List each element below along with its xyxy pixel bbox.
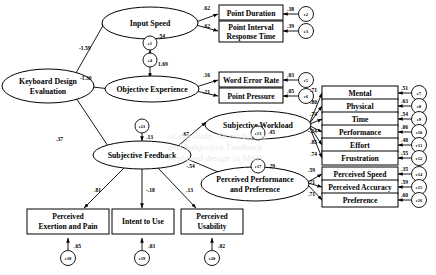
label-exertion-1: Perceived [52,212,84,221]
coef-sf-workload: .67 [182,131,189,137]
label-pp-line2: and Preference [230,185,281,194]
load-point-duration: .62 [203,5,210,11]
label-point-interval-2: Response Time [227,32,277,41]
label-effort: Effort [350,141,370,150]
label-e20: e20 [209,256,216,261]
var-e18: .65 [74,243,81,249]
label-e15: e15 [416,185,423,190]
load-word-error-rate: .16 [203,72,210,78]
load-physical: .80 [310,99,317,105]
label-objective-experience: Objective Experience [116,85,188,94]
label-mental: Mental [348,89,371,98]
resid-input-speed: .54 [158,33,165,39]
diagram-canvas: Keyboard Design Evaluation Input Speed O… [0,0,436,275]
coef-sf-intent: -.18 [146,187,155,193]
label-e10: e10 [416,130,423,135]
label-perceived-accuracy: Perceived Accuracy [328,183,392,192]
label-usability-1: Perceived [196,212,228,221]
load-perceived-speed: .59 [308,167,315,173]
label-intent-to-use: Intent to Use [122,217,164,226]
var-e11: .48 [401,137,408,143]
resid-workload: .45 [268,129,275,135]
coef-sf-exertion: .81 [94,187,101,193]
var-e12: .55 [401,150,408,156]
label-point-pressure: Point Pressure [227,92,275,101]
label-e5: e5 [304,78,309,83]
label-e2: e2 [304,12,309,17]
label-e4: e4 [148,58,153,63]
var-e10: .06 [401,124,408,130]
label-kde-line1: Keyboard Design [19,77,77,86]
label-e6: e6 [304,94,309,99]
edge-kde-to-subjective-feedback [72,92,112,152]
load-point-pressure: .21 [203,89,210,95]
label-usability-2: Usability [197,222,226,231]
var-e16: .60 [401,192,408,198]
var-e20: .02 [218,243,225,249]
edge-kde-to-input-speed [72,22,105,80]
var-e15: .59 [401,179,408,185]
resid-subjective-feedback: .13 [146,134,153,140]
load-preference: .71 [308,191,315,197]
label-e1: e1 [148,41,153,46]
coef-sf-usability: .13 [186,187,193,193]
label-perceived-speed: Perceived Speed [334,170,388,179]
label-pp-line1: Perceived Performance [216,175,294,184]
label-e11: e11 [416,143,423,148]
coef-sf-performance: -.54 [186,163,195,169]
label-e18: e18 [65,256,72,261]
coef-kde-subjective-feedback: .37 [56,136,63,142]
label-e13: e13 [255,131,262,136]
label-subjective-feedback: Subjective Feedback [108,151,177,160]
load-point-interval: .62 [203,23,210,29]
resid-objective-experience: 1.69 [158,61,168,67]
var-e19: .03 [148,243,155,249]
label-exertion-2: Exertion and Pain [38,222,98,231]
var-e5: .03 [287,72,294,78]
coef-kde-input-speed: -1.59 [79,45,91,51]
label-kde-line2: Evaluation [30,87,67,96]
label-preference: Preference [343,196,378,205]
label-e7: e7 [417,91,422,96]
label-e19: e19 [139,256,146,261]
var-e3: .39 [287,23,294,29]
var-e14: .35 [401,166,408,172]
label-e3: e3 [304,29,309,34]
edge-sf-to-exertion [84,168,124,208]
load-time: .74 [310,111,317,117]
label-e9: e9 [417,117,422,122]
label-e16: e16 [416,198,423,203]
label-time: Time [352,115,369,124]
load-effort: .85 [310,139,317,145]
label-word-error-rate: Word Error Rate [223,76,280,85]
load-performance: -.24 [308,128,317,134]
label-e12: e12 [416,156,423,161]
load-frustration: .74 [310,151,317,157]
label-performance: Performance [339,128,382,137]
label-point-duration: Point Duration [227,9,277,18]
coef-kde-objective-experience: -1.30 [80,75,92,81]
load-perceived-accuracy: .71 [308,179,315,185]
edge-oe-word-error-rate [196,80,218,87]
var-e2: .38 [287,6,294,12]
sem-path-diagram: of the study. To model the and Subjectiv… [0,0,436,275]
var-e8: .63 [401,98,408,104]
label-input-speed: Input Speed [130,19,171,28]
label-e14: e14 [416,172,423,177]
var-e9: .54 [401,111,408,117]
label-point-interval-1: Point Interval [228,23,273,32]
label-e8: e8 [417,104,422,109]
label-e21: e21 [139,124,146,129]
edge-is-point-duration [196,14,218,22]
label-frustration: Frustration [341,154,379,163]
label-e17: e17 [255,164,262,169]
var-e7: .51 [401,85,408,91]
var-e6: .05 [287,88,294,94]
resid-performance: .29 [268,163,275,169]
label-physical: Physical [346,102,373,111]
load-mental: .71 [310,87,317,93]
